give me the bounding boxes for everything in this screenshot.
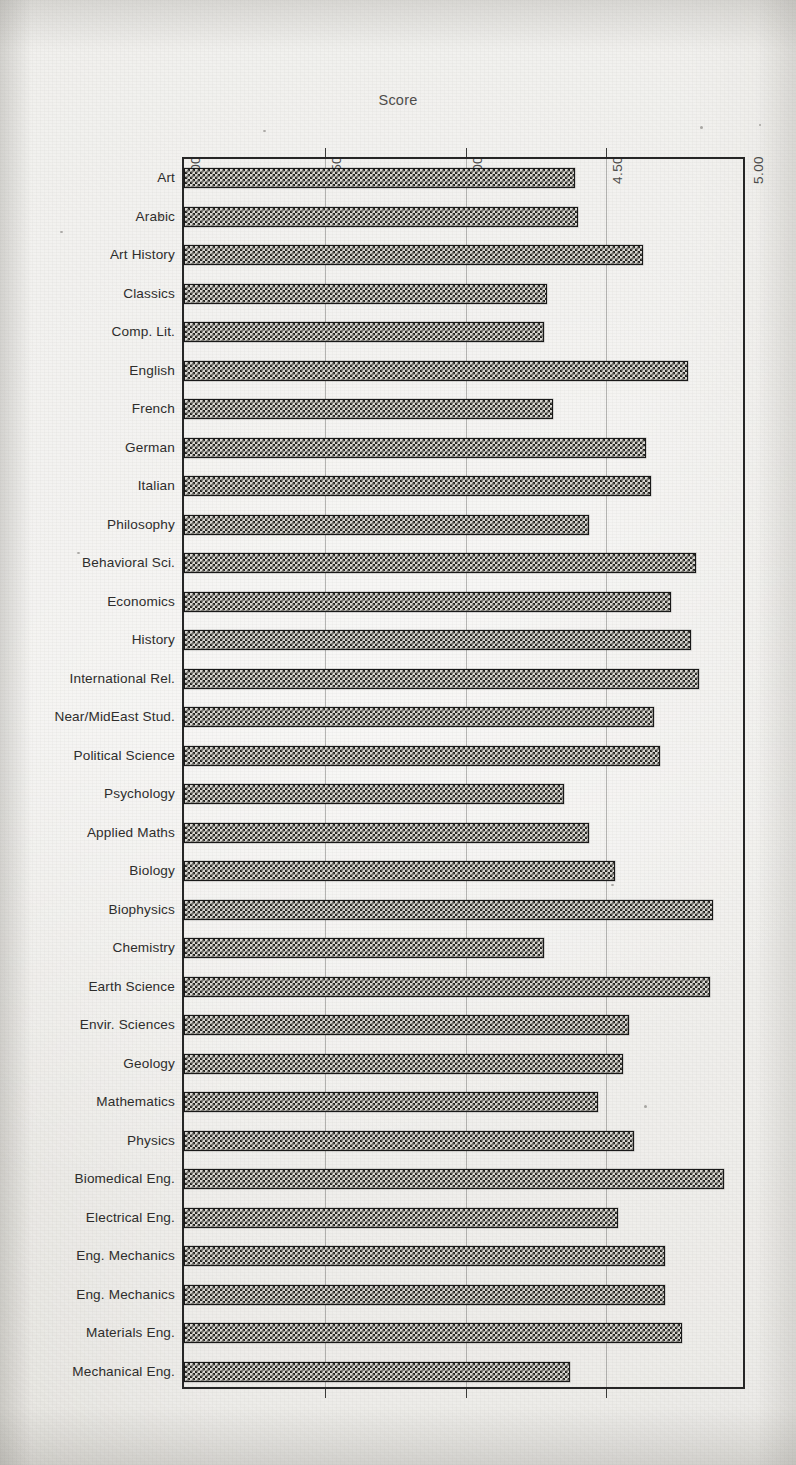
scan-speck [611, 884, 614, 886]
bar [184, 861, 615, 881]
bar [184, 438, 646, 458]
bar-row: Eng. Mechanics [184, 1285, 743, 1305]
category-label: International Rel. [70, 672, 175, 686]
x-tickmark [325, 1389, 326, 1398]
category-label: Arabic [136, 210, 175, 224]
bar-row: International Rel. [184, 669, 743, 689]
category-label: Eng. Mechanics [76, 1249, 175, 1263]
bar-row: English [184, 361, 743, 381]
bar [184, 1054, 623, 1074]
category-label: Earth Science [88, 980, 175, 994]
category-label: Comp. Lit. [112, 325, 175, 339]
bar-row: Art [184, 168, 743, 188]
bar [184, 207, 578, 227]
bar-row: Electrical Eng. [184, 1208, 743, 1228]
bar [184, 630, 691, 650]
category-label: Behavioral Sci. [82, 556, 175, 570]
bar [184, 361, 688, 381]
bar-row: Italian [184, 476, 743, 496]
bar [184, 746, 660, 766]
bar-row: Psychology [184, 784, 743, 804]
bar-row: German [184, 438, 743, 458]
bar-rows: ArtArabicArt HistoryClassicsComp. Lit.En… [184, 159, 743, 1387]
scan-speck [60, 231, 63, 233]
bar-row: Biophysics [184, 900, 743, 920]
horizontal-bar-chart: Score 3.003.504.004.505.00 ArtArabicArt … [0, 0, 796, 1465]
bar-row: Biology [184, 861, 743, 881]
category-label: Classics [123, 287, 175, 301]
category-label: Biomedical Eng. [75, 1172, 175, 1186]
category-label: Political Science [73, 749, 175, 763]
category-label: Philosophy [107, 518, 175, 532]
category-label: Economics [107, 595, 175, 609]
category-label: Art [157, 171, 175, 185]
bar-row: History [184, 630, 743, 650]
category-label: Mathematics [96, 1095, 175, 1109]
bar [184, 553, 696, 573]
bar [184, 476, 651, 496]
x-tickmark [466, 148, 467, 157]
bar [184, 592, 671, 612]
bar [184, 1092, 598, 1112]
axis-title: Score [0, 92, 796, 108]
bar-row: Philosophy [184, 515, 743, 535]
category-label: English [129, 364, 175, 378]
category-label: German [125, 441, 175, 455]
category-label: Envir. Sciences [80, 1018, 175, 1032]
category-label: Chemistry [112, 941, 175, 955]
category-label: History [132, 633, 175, 647]
bar [184, 1169, 724, 1189]
bar [184, 823, 589, 843]
bar [184, 977, 710, 997]
category-label: Near/MidEast Stud. [54, 710, 175, 724]
bar-row: Behavioral Sci. [184, 553, 743, 573]
bar [184, 900, 713, 920]
bar-row: Envir. Sciences [184, 1015, 743, 1035]
category-label: Biophysics [109, 903, 175, 917]
bar-row: Eng. Mechanics [184, 1246, 743, 1266]
category-label: Mechanical Eng. [72, 1365, 175, 1379]
bar-row: French [184, 399, 743, 419]
x-tickmark [606, 148, 607, 157]
category-label: French [132, 402, 175, 416]
bar [184, 669, 699, 689]
plot-area: ArtArabicArt HistoryClassicsComp. Lit.En… [182, 157, 745, 1389]
scan-speck [759, 124, 761, 126]
bar [184, 1285, 665, 1305]
category-label: Applied Maths [87, 826, 175, 840]
bar-row: Economics [184, 592, 743, 612]
bar-row: Art History [184, 245, 743, 265]
x-tickmark [606, 1389, 607, 1398]
bar-row: Materials Eng. [184, 1323, 743, 1343]
x-axis-tick-labels: 3.003.504.004.505.00 [0, 110, 796, 158]
bar-row: Chemistry [184, 938, 743, 958]
bar [184, 938, 544, 958]
scan-speck [159, 215, 162, 218]
bar [184, 399, 553, 419]
scan-speck [644, 1105, 647, 1108]
scan-speck [77, 552, 80, 554]
bar-row: Mechanical Eng. [184, 1362, 743, 1382]
bar-row: Comp. Lit. [184, 322, 743, 342]
bar [184, 322, 544, 342]
category-label: Materials Eng. [86, 1326, 175, 1340]
bar-row: Near/MidEast Stud. [184, 707, 743, 727]
bar-row: Mathematics [184, 1092, 743, 1112]
category-label: Electrical Eng. [86, 1211, 175, 1225]
category-label: Geology [123, 1057, 175, 1071]
bar [184, 1208, 618, 1228]
bar-row: Physics [184, 1131, 743, 1151]
bar [184, 284, 547, 304]
scan-speck [263, 130, 266, 132]
bar [184, 515, 589, 535]
category-label: Italian [138, 479, 175, 493]
bar-row: Earth Science [184, 977, 743, 997]
bar [184, 245, 643, 265]
category-label: Psychology [104, 787, 175, 801]
bar-row: Applied Maths [184, 823, 743, 843]
bar-row: Arabic [184, 207, 743, 227]
bar [184, 1246, 665, 1266]
bar [184, 1015, 629, 1035]
category-label: Art History [110, 248, 175, 262]
x-tickmark [325, 148, 326, 157]
